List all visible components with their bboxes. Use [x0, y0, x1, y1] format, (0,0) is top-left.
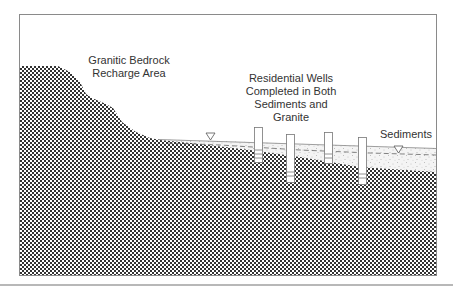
cross-section-diagram	[0, 0, 453, 287]
residential-well-4	[359, 138, 367, 185]
wells-label-line-4: Granite	[236, 111, 346, 124]
bottom-divider	[0, 284, 453, 286]
residential-well-1	[255, 128, 263, 163]
bedrock-recharge-label: Granitic Bedrock Recharge Area	[84, 54, 174, 80]
bedrock-label-line-2: Recharge Area	[84, 67, 174, 80]
residential-wells-label: Residential Wells Completed in Both Sedi…	[236, 72, 346, 124]
sediments-label-text: Sediments	[380, 128, 432, 140]
bedrock-label-line-1: Granitic Bedrock	[84, 54, 174, 67]
wells-label-line-3: Sediments and	[236, 98, 346, 111]
wells-label-line-1: Residential Wells	[236, 72, 346, 85]
residential-well-3	[325, 133, 333, 164]
wells-label-line-2: Completed in Both	[236, 85, 346, 98]
residential-well-2	[287, 135, 295, 183]
sediments-label: Sediments	[380, 128, 432, 141]
